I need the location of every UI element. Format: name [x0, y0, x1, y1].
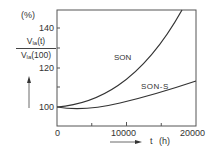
- series-label-son: SON: [114, 54, 131, 62]
- series-label-son-s: SON-S: [141, 83, 169, 91]
- y-unit-label: (%): [21, 11, 35, 20]
- xtick-label-20000: 20000: [180, 129, 205, 138]
- x-axis-label: t (h): [150, 137, 170, 146]
- series-son-s-line: [57, 81, 196, 109]
- ytick-label-100: 100: [39, 103, 54, 112]
- ytick-label-140: 140: [39, 24, 54, 33]
- y-axis-label: Vla(t) Vla(100): [16, 37, 56, 60]
- xtick-label-10000: 10000: [111, 129, 136, 138]
- x-arrow-head-icon: [135, 140, 142, 144]
- xtick-label-0: 0: [55, 129, 60, 138]
- y-arrow-head-icon: [27, 76, 31, 83]
- ytick-label-120: 120: [39, 64, 54, 73]
